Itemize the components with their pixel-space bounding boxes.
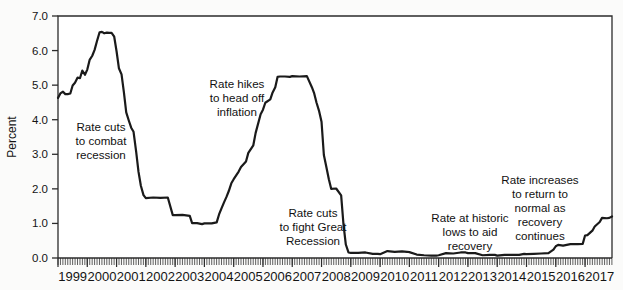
y-axis-tick-label: 1.0 [32, 217, 48, 229]
x-axis-tick-label: 2013 [468, 269, 497, 284]
anno-rate-hikes-inflation: Rate hikesto head offinflation [210, 77, 265, 118]
chart-container: 7.06.05.04.03.02.01.00.0Percent199920002… [0, 0, 623, 290]
y-axis-title: Percent [5, 116, 19, 158]
annotation-line: to fight Great [279, 220, 347, 233]
x-axis-tick-label: 2017 [585, 269, 614, 284]
annotation-line: to head off [210, 91, 265, 104]
annotation-line: inflation [217, 105, 257, 118]
x-axis-tick-label: 2006 [263, 269, 292, 284]
annotation-line: normal as [515, 201, 566, 214]
x-axis-tick-label: 2016 [556, 269, 585, 284]
annotation-line: Rate cuts [77, 120, 126, 133]
x-axis-tick-label: 2015 [527, 269, 556, 284]
x-axis-tick-label: 2001 [117, 269, 146, 284]
x-axis-tick-label: 2000 [87, 269, 116, 284]
x-axis-tick-label: 2002 [146, 269, 175, 284]
annotation-line: Rate increases [501, 173, 579, 186]
x-axis-tick-label: 2011 [410, 269, 438, 284]
x-axis-tick-label: 2008 [322, 269, 351, 284]
x-axis-tick-label: 2012 [439, 269, 468, 284]
federal-funds-rate-line-chart: 7.06.05.04.03.02.01.00.0Percent199920002… [0, 0, 623, 290]
x-axis-tick-label: 2007 [292, 269, 321, 284]
annotation-line: Rate hikes [210, 77, 265, 90]
y-axis-tick-label: 3.0 [32, 148, 48, 160]
annotation-line: recovery [448, 239, 493, 252]
x-axis-tick-label: 2014 [497, 269, 526, 284]
x-axis-tick-label: 1999 [58, 269, 87, 284]
anno-rate-cuts-recession: Rate cutsto combatrecession [76, 120, 128, 161]
x-axis-tick-label: 2004 [205, 269, 234, 284]
y-axis-tick-label: 5.0 [32, 79, 48, 91]
y-axis-tick-label: 0.0 [32, 252, 48, 264]
y-axis-tick-label: 7.0 [32, 10, 48, 22]
y-axis-tick-label: 6.0 [32, 45, 48, 57]
x-axis-tick-label: 2009 [351, 269, 380, 284]
annotation-line: recession [76, 148, 126, 161]
annotation-line: Recession [286, 234, 340, 247]
annotation-line: recovery [518, 215, 563, 228]
annotation-line: Rate at historic [431, 211, 509, 224]
anno-rate-cuts-great-recession: Rate cutsto fight GreatRecession [279, 206, 347, 247]
x-axis-tick-label: 2003 [175, 269, 204, 284]
y-axis-tick-label: 2.0 [32, 183, 48, 195]
annotation-line: continues [515, 229, 565, 242]
annotation-line: to return to [512, 187, 568, 200]
x-axis-tick-label: 2010 [380, 269, 409, 284]
y-axis-tick-label: 4.0 [32, 114, 48, 126]
annotation-line: lows to aid [443, 225, 498, 238]
annotation-line: Rate cuts [289, 206, 338, 219]
x-axis-tick-label: 2005 [234, 269, 263, 284]
annotation-line: to combat [76, 134, 128, 147]
